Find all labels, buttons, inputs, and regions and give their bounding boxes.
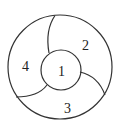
divider-left (16, 85, 47, 97)
ring-diagram: 1 2 3 4 (0, 0, 122, 138)
region-label-3: 3 (64, 101, 71, 116)
region-label-2: 2 (82, 38, 89, 53)
divider-top (48, 16, 55, 54)
region-label-4: 4 (22, 59, 29, 74)
divider-right (80, 72, 105, 95)
region-label-1: 1 (58, 64, 65, 79)
